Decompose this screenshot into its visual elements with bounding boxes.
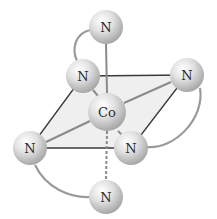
molecule-svg: N N N Co N N N — [0, 0, 217, 219]
atom-n-bottom: N — [89, 180, 123, 214]
atom-n-top: N — [89, 10, 123, 44]
atom-n-right: N — [170, 58, 204, 92]
atom-n-left: N — [13, 131, 47, 165]
label-n-bottom: N — [100, 190, 111, 205]
atom-n-lower-right: N — [114, 131, 148, 165]
label-co: Co — [98, 105, 116, 120]
label-n-right: N — [181, 68, 192, 83]
atom-n-upper-left: N — [66, 59, 100, 93]
label-n-upper-left: N — [77, 69, 88, 84]
octahedral-complex-diagram: N N N Co N N N — [0, 0, 217, 219]
label-n-top: N — [100, 20, 111, 35]
atom-co-center: Co — [88, 93, 126, 131]
label-n-left: N — [24, 141, 35, 156]
label-n-lower-right: N — [125, 141, 136, 156]
